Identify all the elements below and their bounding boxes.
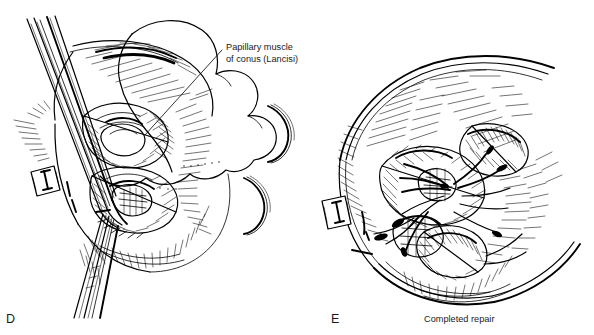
- annotation-label-line2: of conus (Lancisi): [226, 54, 298, 64]
- panel-letter-e: E: [331, 312, 340, 326]
- panel-letter-d: D: [6, 312, 15, 326]
- figure-canvas: Papillary muscle of conus (Lancisi): [0, 0, 594, 335]
- panel-e-caption: Completed repair: [424, 314, 494, 324]
- surgical-figure: Papillary muscle of conus (Lancisi): [0, 0, 594, 335]
- annotation-label-line1: Papillary muscle: [226, 42, 293, 52]
